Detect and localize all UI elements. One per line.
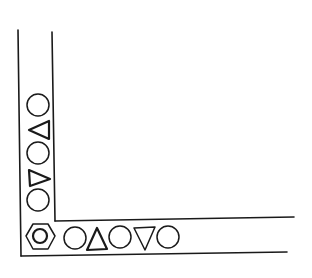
hexagon-inner-circle-icon xyxy=(33,229,47,243)
inner-bottom-line xyxy=(55,217,294,221)
circle-icon xyxy=(109,226,131,248)
triangle-up-icon xyxy=(87,228,107,250)
hexagon-icon xyxy=(26,224,55,249)
circle-icon xyxy=(27,189,49,211)
circle-icon xyxy=(157,226,179,248)
inner-left-line xyxy=(52,32,55,221)
triangle-right-icon xyxy=(29,170,50,186)
circle-icon xyxy=(27,142,49,164)
outer-bottom-line xyxy=(21,252,287,256)
l-channel-diagram xyxy=(0,0,312,278)
diagram-svg xyxy=(0,0,312,278)
outer-left-line xyxy=(18,30,21,256)
circle-icon xyxy=(27,94,49,116)
triangle-down-icon xyxy=(134,227,155,250)
triangle-left-icon xyxy=(29,121,49,139)
circle-icon xyxy=(64,227,86,249)
